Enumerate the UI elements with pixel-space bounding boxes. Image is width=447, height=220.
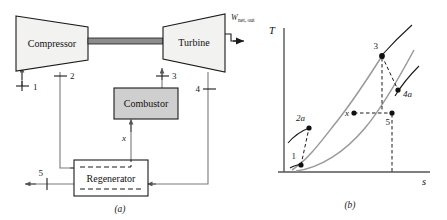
caption-a: (a) (114, 204, 125, 215)
ts-label-3: 3 (374, 41, 379, 51)
compressor-label: Compressor (28, 38, 77, 49)
figure-text-layer: Compressor Turbine Combustor Regenerator… (0, 0, 447, 220)
schematic-state-x-label: x (121, 133, 126, 143)
regenerator-label: Regenerator (87, 173, 137, 184)
ts-label-2a: 2a (296, 113, 306, 123)
schematic-state-4-label: 4 (196, 84, 201, 94)
schematic-state-3-label: 3 (172, 71, 177, 81)
figure-container: Compressor Turbine Combustor Regenerator… (0, 0, 447, 220)
ts-label-5: 5 (386, 117, 391, 127)
ts-y-axis-label: T (269, 25, 276, 36)
combustor-label: Combustor (124, 98, 169, 109)
ts-x-axis-label: s (422, 176, 426, 187)
work-output-subscript: net, out (238, 17, 255, 23)
schematic-state-2-label: 2 (70, 71, 75, 81)
ts-label-4a: 4a (403, 89, 413, 99)
caption-b: (b) (344, 200, 355, 211)
ts-label-x: x (344, 108, 349, 118)
ts-label-1: 1 (292, 151, 297, 161)
schematic-state-1-label: 1 (33, 82, 38, 92)
schematic-state-5-label: 5 (39, 168, 44, 178)
turbine-label: Turbine (178, 37, 210, 48)
